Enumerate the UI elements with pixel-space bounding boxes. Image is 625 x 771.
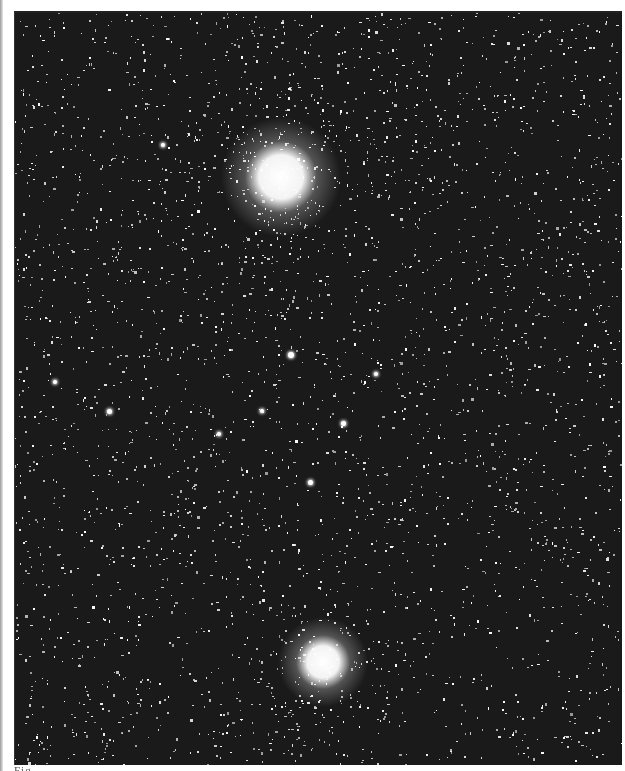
page-edge — [0, 0, 3, 771]
figure-caption: Fig. ... — [14, 763, 614, 771]
star-grain-texture — [15, 13, 622, 765]
star-field-photo — [14, 11, 622, 765]
